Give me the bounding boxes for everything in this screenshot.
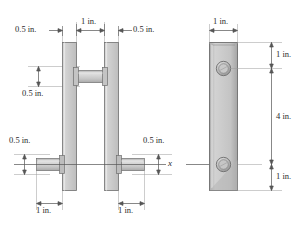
dim-front-top-left: 0.5 in. (15, 25, 37, 34)
dim-front-left-lower: 0.5 in. (9, 136, 31, 145)
dim-side-right-lower: 1 in. (276, 172, 291, 181)
dim-front-bottom-left: 1 in. (36, 206, 51, 215)
x-axis-label: x (168, 159, 172, 168)
figure-canvas: 0.5 in. 1 in. 0.5 in. 0.5 in. 0.5 in. 0.… (0, 0, 299, 231)
side-view-hole (216, 157, 230, 171)
side-top-width-dimension (210, 29, 238, 33)
dim-front-top-center: 1 in. (81, 17, 96, 26)
front-extension-lines (14, 22, 172, 210)
side-right-dimensions (270, 43, 274, 191)
dim-side-right-upper: 1 in. (276, 50, 291, 59)
dim-front-left-upper: 0.5 in. (22, 89, 44, 98)
front-left-upper-dimension (37, 67, 41, 87)
dim-front-bottom-right: 1 in. (118, 206, 133, 215)
side-view-upper-hole (216, 61, 230, 75)
dim-front-right-lower: 0.5 in. (143, 136, 165, 145)
dim-front-top-right: 0.5 in. (133, 25, 155, 34)
front-upper-pin (74, 68, 108, 86)
dim-side-right-middle: 4 in. (276, 112, 291, 121)
drawing-svg (0, 0, 299, 231)
dim-side-top-width: 1 in. (213, 17, 228, 26)
